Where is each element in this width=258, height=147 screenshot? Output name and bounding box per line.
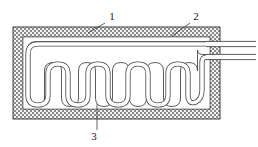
outlet-tube-lower: [206, 54, 256, 59]
reference-label-2: 2: [193, 10, 199, 22]
figure-canvas: 1 2 3: [0, 0, 258, 147]
reference-label-1: 1: [109, 10, 115, 22]
outlet-lower-body: [206, 54, 256, 59]
outlet-tube-upper: [206, 41, 256, 46]
reference-label-3: 3: [91, 130, 97, 142]
patent-figure: 1 2 3: [0, 0, 258, 147]
outlet-upper-body: [206, 41, 256, 46]
inner-cavity: [24, 38, 210, 109]
